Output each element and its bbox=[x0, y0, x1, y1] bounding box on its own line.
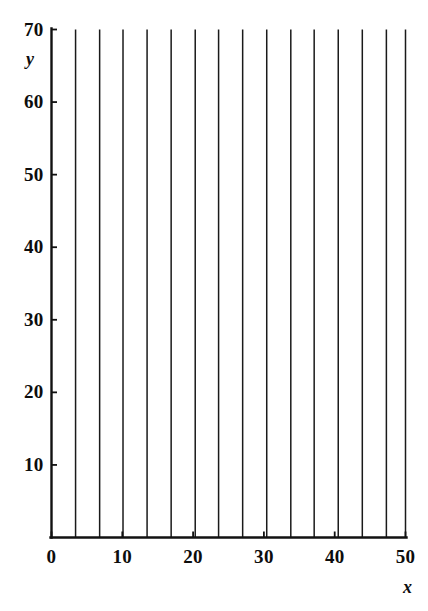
trajectory-lines-group bbox=[76, 30, 406, 538]
axes-group bbox=[51, 29, 407, 538]
x-tick-label: 40 bbox=[315, 547, 355, 566]
y-tick-label: 20 bbox=[0, 382, 44, 401]
y-tick-label: 70 bbox=[0, 20, 44, 39]
y-tick-label: 60 bbox=[0, 92, 44, 111]
x-tick-label: 10 bbox=[102, 547, 142, 566]
x-tick-label: 50 bbox=[386, 547, 426, 566]
y-tick-label: 50 bbox=[0, 165, 44, 184]
x-tick-label: 30 bbox=[244, 547, 284, 566]
y-tick-label: 40 bbox=[0, 237, 44, 256]
x-tick-label: 20 bbox=[173, 547, 213, 566]
y-tick-label: 10 bbox=[0, 455, 44, 474]
x-axis-title: x bbox=[403, 578, 412, 596]
chart-plot-area bbox=[0, 0, 428, 611]
x-tick-label: 0 bbox=[32, 547, 72, 566]
y-axis-title: y bbox=[26, 50, 34, 68]
y-tick-label: 30 bbox=[0, 310, 44, 329]
chart-figure: 10203040506070 01020304050 y x bbox=[0, 0, 428, 611]
